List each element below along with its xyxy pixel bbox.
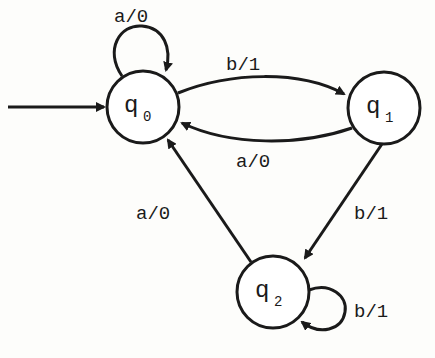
edge-label-q2-q2: b/1 [354,301,388,323]
state-q1: q 1 [348,72,420,144]
state-q2-name: q [255,277,269,304]
edge-q0-q0 [114,26,168,76]
state-q0-name: q [124,92,138,119]
edge-label-q1-q2: b/1 [354,203,388,225]
edge-label-q0-q0: a/0 [114,6,148,28]
state-q0: q 0 [107,71,179,143]
edge-label-q0-q1: b/1 [226,54,260,76]
edge-q1-q0 [182,123,352,141]
edge-label-q2-q0: a/0 [136,203,170,225]
edge-q1-q2 [305,144,382,258]
state-q0-subscript: 0 [143,109,151,125]
state-q1-name: q [366,93,380,120]
edge-q0-q1 [178,77,344,94]
state-diagram: a/0 b/1 a/0 b/1 a/0 b/1 q 0 q 1 q 2 [0,0,435,358]
state-q2-subscript: 2 [274,294,282,310]
edge-label-q1-q0: a/0 [236,151,270,173]
state-q1-subscript: 1 [385,110,393,126]
state-q2: q 2 [237,256,309,328]
